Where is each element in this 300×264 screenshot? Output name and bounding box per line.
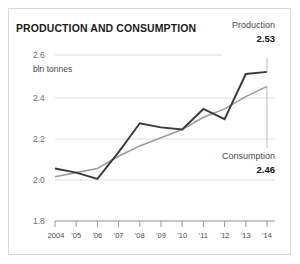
x-tick-label-14: '14 bbox=[262, 231, 272, 240]
y-tick-label-2-6: 2.6 bbox=[33, 50, 45, 60]
annotation-production-label: Production bbox=[232, 20, 275, 30]
annotation-consumption: Consumption 2.46 bbox=[222, 151, 275, 175]
y-tick-label-1-8: 1.8 bbox=[33, 216, 45, 226]
x-tick-label-12: '12 bbox=[220, 231, 230, 240]
x-axis-ticks bbox=[55, 221, 267, 227]
chart-card: PRODUCTION AND CONSUMPTION 2.6 2.4 2.2 2… bbox=[0, 0, 300, 264]
x-tick-label-05: '05 bbox=[71, 231, 81, 240]
gridlines bbox=[55, 55, 275, 180]
series-line-consumption bbox=[55, 86, 267, 176]
annotation-consumption-value: 2.46 bbox=[257, 164, 276, 175]
x-tick-label-13: '13 bbox=[241, 231, 251, 240]
y-axis-unit-label: bln tonnes bbox=[33, 64, 72, 74]
x-axis-labels: 2004 '05 '06 '07 '08 '09 '10 '11 '12 '13… bbox=[48, 231, 272, 240]
y-tick-label-2-4: 2.4 bbox=[33, 93, 45, 103]
x-tick-label-06: '06 bbox=[93, 231, 103, 240]
series-line-production bbox=[55, 72, 267, 179]
x-tick-label-2004: 2004 bbox=[48, 231, 65, 240]
annotation-production-value: 2.53 bbox=[257, 33, 276, 44]
y-tick-label-2-0: 2.0 bbox=[33, 175, 45, 185]
y-tick-label-2-2: 2.2 bbox=[33, 134, 45, 144]
x-tick-label-11: '11 bbox=[199, 231, 208, 240]
y-axis-labels: 2.6 2.4 2.2 2.0 1.8 bbox=[33, 50, 45, 226]
annotation-consumption-label: Consumption bbox=[222, 151, 275, 161]
x-tick-label-09: '09 bbox=[156, 231, 166, 240]
annotation-production: Production 2.53 bbox=[232, 20, 275, 44]
x-tick-label-08: '08 bbox=[135, 231, 145, 240]
x-tick-label-10: '10 bbox=[177, 231, 187, 240]
x-tick-label-07: '07 bbox=[114, 231, 124, 240]
line-chart-plot: 2.6 2.4 2.2 2.0 1.8 bln tonnes bbox=[0, 0, 300, 264]
